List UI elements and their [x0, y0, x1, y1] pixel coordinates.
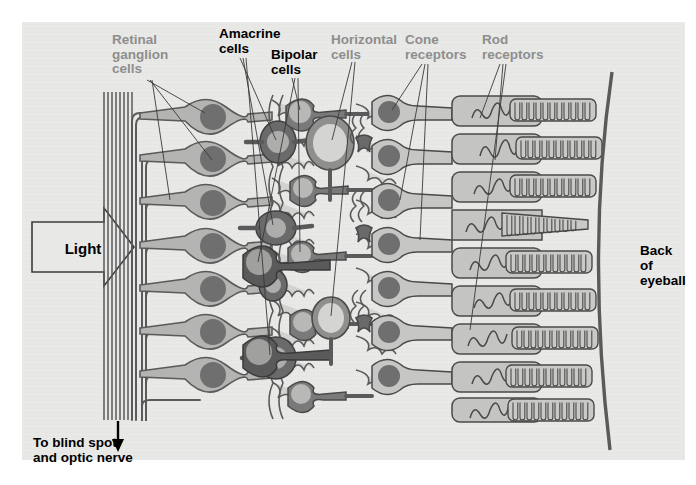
label-back-of-eyeball: Back of eyeball [640, 243, 686, 288]
label-light: Light [40, 240, 126, 257]
label-retinal-ganglion-cells: Retinal ganglion cells [112, 33, 168, 77]
figure-canvas: Retinal ganglion cells Amacrine cells Bi… [0, 0, 696, 485]
rod-outer-segment-layer [506, 99, 602, 421]
label-cone-receptors: Cone receptors [405, 33, 467, 62]
label-rod-receptors: Rod receptors [482, 33, 544, 62]
label-to-blind-spot: To blind spot and optic nerve [33, 435, 133, 465]
label-horizontal-cells: Horizontal cells [331, 33, 397, 62]
label-bipolar-cells: Bipolar cells [271, 48, 318, 77]
